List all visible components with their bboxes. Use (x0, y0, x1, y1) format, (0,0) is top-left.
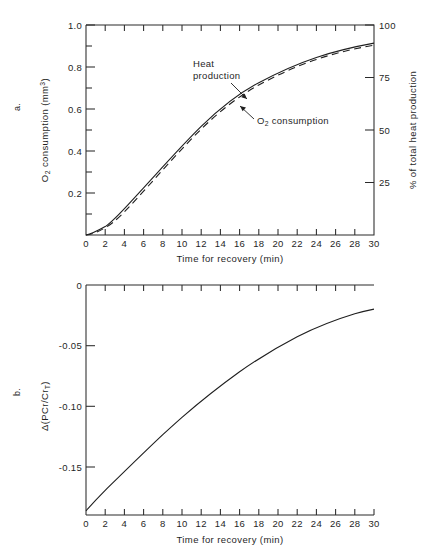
ytick-a-right-75: 75 (379, 72, 390, 83)
xtick-a-12: 12 (196, 238, 207, 249)
svg-text:a.: a. (12, 103, 22, 111)
panel-b-xtick-labels: 0 2 4 6 8 10 12 14 16 18 20 22 24 26 28 … (83, 518, 379, 529)
panel-a-x-axis-title: Time for recovery (min) (176, 253, 283, 264)
panel-a-y-axis-right-title: % of total heat production (407, 71, 418, 189)
panel-a-top-ticks (105, 25, 355, 31)
svg-text:O2 consumption (mm3): O2 consumption (mm3) (39, 78, 52, 182)
panel-b-label: b. (12, 388, 22, 396)
xtick-a-30: 30 (368, 238, 379, 249)
xtick-b-22: 22 (292, 518, 303, 529)
xtick-a-26: 26 (330, 238, 341, 249)
panel-a-right-ticks (365, 25, 374, 183)
xtick-a-4: 4 (122, 238, 128, 249)
panel-b-y-axis-title: Δ(PCr/CrT) (39, 381, 51, 431)
ytick-b-0.15: -0.15 (59, 462, 82, 473)
o2-consumption-label: O2 consumption (257, 115, 329, 127)
xtick-b-18: 18 (253, 518, 264, 529)
heat-production-annotation: Heat production (193, 58, 247, 99)
panel-a-right-tick-labels: 100 75 50 25 (379, 20, 396, 189)
xtick-b-14: 14 (215, 518, 226, 529)
svg-text:Δ(PCr/CrT): Δ(PCr/CrT) (39, 381, 51, 431)
panel-a-y-axis-left-title: O2 consumption (mm3) (39, 78, 52, 182)
panel-b-bottom-ticks (105, 509, 374, 515)
panel-b-x-axis-title: Time for recovery (min) (176, 534, 283, 545)
xtick-a-0: 0 (83, 238, 89, 249)
xtick-b-2: 2 (102, 518, 108, 529)
heat-production-label-line2: production (193, 70, 240, 81)
xtick-a-18: 18 (253, 238, 264, 249)
ytick-b-0: 0 (76, 280, 82, 291)
ytick-a-1.0: 1.0 (68, 20, 82, 31)
xtick-b-16: 16 (234, 518, 245, 529)
ytick-b-0.10: -0.10 (59, 401, 82, 412)
ytick-a-0.8: 0.8 (68, 62, 82, 73)
ytick-a-right-100: 100 (379, 20, 396, 31)
xtick-b-10: 10 (176, 518, 187, 529)
xtick-a-8: 8 (160, 238, 166, 249)
panel-b: 0 -0.05 -0.10 -0.15 (12, 280, 380, 546)
xtick-b-30: 30 (368, 518, 379, 529)
panel-a-left-ticks (86, 25, 95, 214)
page-header-faint (282, 0, 432, 9)
xtick-a-10: 10 (176, 238, 187, 249)
svg-text:b.: b. (12, 388, 22, 396)
panel-b-top-ticks (105, 285, 355, 291)
xtick-b-20: 20 (272, 518, 283, 529)
xtick-a-16: 16 (234, 238, 245, 249)
ytick-a-0.4: 0.4 (68, 146, 82, 157)
panel-a-xtick-labels: 0 2 4 6 8 10 12 14 16 18 20 22 24 26 28 … (83, 238, 379, 249)
panel-a: 1.0 0.8 0.6 0.4 0.2 100 75 50 25 (12, 20, 418, 265)
xtick-a-22: 22 (292, 238, 303, 249)
ytick-a-0.2: 0.2 (68, 188, 82, 199)
panel-a-label: a. (12, 103, 22, 111)
panel-a-bottom-ticks (105, 229, 355, 235)
xtick-a-20: 20 (272, 238, 283, 249)
figure-svg: 1.0 0.8 0.6 0.4 0.2 100 75 50 25 (0, 0, 438, 553)
xtick-a-28: 28 (349, 238, 360, 249)
heat-production-label-line1: Heat (193, 58, 214, 69)
xtick-b-26: 26 (330, 518, 341, 529)
xtick-b-28: 28 (349, 518, 360, 529)
ytick-b-0.05: -0.05 (59, 340, 82, 351)
svg-text:% of total heat production: % of total heat production (407, 71, 418, 189)
panel-a-left-tick-labels: 1.0 0.8 0.6 0.4 0.2 (68, 20, 82, 199)
curve-pcr-cr-ratio (86, 309, 374, 511)
xtick-b-8: 8 (160, 518, 166, 529)
panel-b-left-tick-labels: 0 -0.05 -0.10 -0.15 (59, 280, 82, 473)
ytick-a-right-25: 25 (379, 177, 390, 188)
figure-container: 1.0 0.8 0.6 0.4 0.2 100 75 50 25 (0, 0, 438, 553)
xtick-a-2: 2 (102, 238, 108, 249)
xtick-a-24: 24 (311, 238, 322, 249)
xtick-b-6: 6 (141, 518, 147, 529)
xtick-a-6: 6 (141, 238, 147, 249)
ytick-a-right-50: 50 (379, 125, 390, 136)
panel-b-left-ticks (86, 346, 95, 467)
o2-consumption-annotation: O2 consumption (240, 106, 329, 127)
xtick-b-4: 4 (122, 518, 128, 529)
xtick-b-12: 12 (196, 518, 207, 529)
xtick-a-14: 14 (215, 238, 226, 249)
ytick-a-0.6: 0.6 (68, 104, 82, 115)
xtick-b-24: 24 (311, 518, 322, 529)
xtick-b-0: 0 (83, 518, 89, 529)
